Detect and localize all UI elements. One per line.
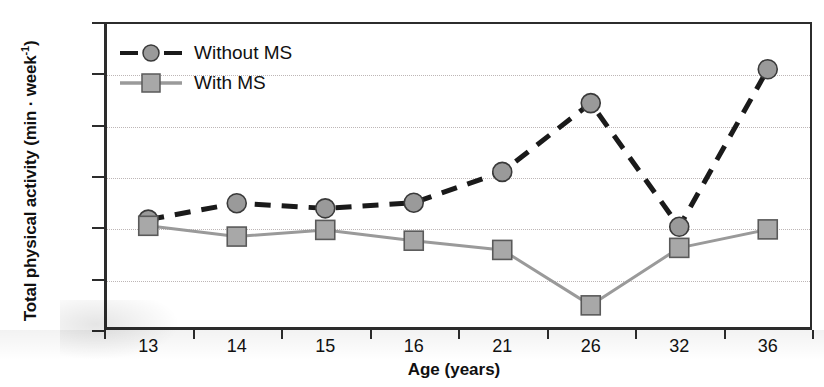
x-tick-label-21: 21	[462, 336, 542, 357]
y-tick-mark-800	[92, 125, 104, 127]
x-tick-label-32: 32	[639, 336, 719, 357]
x-tick-mark-4	[458, 330, 460, 339]
x-tick-mark-2	[281, 330, 283, 339]
y-axis-title: Total physical activity (min · week-1)	[19, 1, 41, 361]
chart-figure: Total physical activity (min · week-1) 4…	[0, 0, 824, 387]
gridline-800	[107, 127, 810, 128]
y-tick-mark-400	[92, 330, 104, 332]
x-tick-label-13: 13	[108, 336, 188, 357]
gridline-600	[107, 229, 810, 230]
y-axis-title-exponent: -1	[19, 46, 31, 55]
legend-label-with-ms: With MS	[194, 72, 266, 94]
legend-key-solid-square	[118, 70, 184, 96]
legend-item-without-ms: Without MS	[118, 38, 348, 68]
y-tick-mark-500	[92, 279, 104, 281]
x-tick-mark-0	[104, 330, 106, 339]
gridline-700	[107, 178, 810, 179]
x-tick-label-36: 36	[728, 336, 808, 357]
y-axis-title-close: )	[21, 41, 40, 46]
x-tick-label-16: 16	[374, 336, 454, 357]
chart-legend: Without MS With MS	[118, 38, 348, 98]
y-axis-title-main: Total physical activity (min · week	[21, 55, 40, 321]
x-tick-label-15: 15	[285, 336, 365, 357]
legend-key-dashed-circle	[118, 40, 184, 66]
x-axis-title: Age (years)	[95, 360, 813, 380]
y-tick-mark-600	[92, 227, 104, 229]
y-tick-mark-700	[92, 176, 104, 178]
x-tick-mark-8	[812, 330, 814, 339]
x-tick-mark-3	[370, 330, 372, 339]
x-tick-mark-7	[724, 330, 726, 339]
x-tick-mark-1	[193, 330, 195, 339]
y-tick-mark-1000	[92, 22, 104, 24]
x-tick-mark-5	[547, 330, 549, 339]
legend-label-without-ms: Without MS	[194, 42, 292, 64]
y-tick-mark-900	[92, 73, 104, 75]
gridline-500	[107, 281, 810, 282]
x-tick-label-14: 14	[197, 336, 277, 357]
x-tick-label-26: 26	[551, 336, 631, 357]
x-tick-mark-6	[635, 330, 637, 339]
legend-item-with-ms: With MS	[118, 68, 348, 98]
